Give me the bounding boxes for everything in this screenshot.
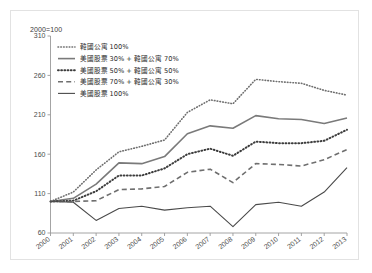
x-tick-label: 2008 (217, 235, 234, 250)
x-tick-label: 2007 (194, 235, 211, 250)
legend-label-0: 韓國公寓 100% (80, 42, 129, 51)
x-tick-label: 2000 (35, 235, 52, 250)
series-line-4 (51, 168, 348, 227)
chart-figure: 2000=100 6011016021026031020002001200220… (0, 0, 372, 273)
x-tick-label: 2001 (57, 235, 74, 250)
y-tick-label: 310 (34, 32, 46, 39)
legend-label-4: 美國股票 100% (80, 89, 129, 98)
y-tick-label: 60 (38, 229, 46, 236)
x-tick-label: 2010 (263, 235, 280, 250)
y-tick-label: 210 (34, 111, 46, 118)
legend-label-1: 美國股票 30% + 韓國公寓 70% (80, 54, 179, 63)
x-tick-label: 2009 (240, 235, 257, 250)
x-tick-label: 2011 (286, 235, 302, 250)
x-tick-label: 2004 (126, 235, 143, 250)
y-tick-label: 160 (34, 151, 46, 158)
series-line-1 (51, 116, 348, 202)
legend-label-2: 美國股票 50% + 韓國公寓 50% (80, 66, 179, 75)
y-tick-label: 110 (34, 190, 45, 197)
series-line-2 (51, 130, 348, 202)
x-tick-label: 2005 (149, 235, 166, 250)
x-tick-label: 2013 (331, 235, 348, 250)
x-tick-label: 2012 (308, 235, 325, 250)
x-tick-label: 2006 (171, 235, 188, 250)
line-chart-plot: 6011016021026031020002001200220032004200… (0, 0, 372, 273)
x-tick-label: 2002 (80, 235, 97, 250)
x-tick-label: 2003 (103, 235, 120, 250)
legend-label-3: 美國股票 70% + 韓國公寓 30% (80, 77, 179, 86)
y-tick-label: 260 (34, 72, 46, 79)
series-line-3 (51, 149, 348, 201)
